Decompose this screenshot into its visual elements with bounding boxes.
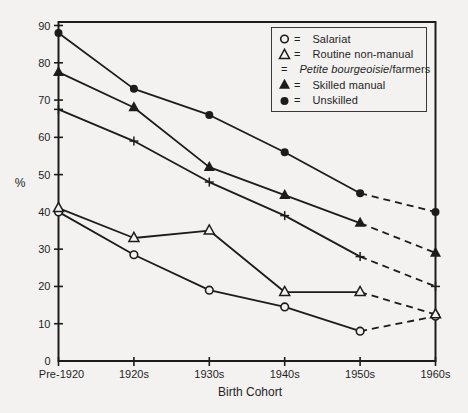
filled-circle-marker: [55, 29, 63, 37]
legend-equals: =: [281, 63, 287, 75]
filled-circle-marker: [281, 148, 289, 156]
y-tick-label: 90: [38, 20, 50, 32]
open-circle-marker: [356, 327, 364, 335]
series-petite-bourgeoisie-farmers-lines: [59, 109, 436, 286]
y-tick-label: 60: [38, 131, 50, 143]
legend-label: Skilled manual: [312, 79, 385, 91]
chart-figure: % Birth Cohort 0102030405060708090Pre-19…: [0, 0, 468, 413]
series-line-dashed: [360, 257, 435, 287]
filled-circle-marker: [281, 97, 289, 105]
y-tick-label: 20: [38, 280, 50, 292]
legend-item-petite-bourgeoisie-farmers: =Petite bourgeoisie/farmers: [278, 62, 424, 77]
x-tick-label: 1930s: [194, 368, 224, 380]
legend-equals: =: [294, 79, 300, 91]
x-tick-label: 1920s: [119, 368, 149, 380]
y-tick-label: 70: [38, 94, 50, 106]
series-salariat-markers: [55, 208, 440, 335]
legend-item-salariat: =Salariat: [278, 31, 424, 46]
filled-circle-marker: [432, 208, 440, 216]
open-circle-marker: [130, 251, 138, 259]
filled-circle-marker: [130, 85, 138, 93]
legend-label: Petite bourgeoisie/farmers: [299, 63, 430, 75]
legend: =Salariat=Routine non-manual=Petite bour…: [271, 27, 427, 112]
y-axis-label: %: [15, 176, 26, 190]
open-circle-marker: [281, 303, 289, 311]
legend-equals: =: [294, 33, 300, 45]
filled-circle-icon: [278, 93, 291, 108]
legend-item-skilled-manual: =Skilled manual: [278, 77, 424, 92]
open-triangle-icon: [278, 47, 291, 62]
open-circle-marker: [281, 36, 289, 44]
legend-equals: =: [294, 94, 300, 106]
open-circle-icon: [278, 31, 291, 46]
filled-triangle-icon: [278, 77, 291, 92]
legend-item-unskilled: =Unskilled: [278, 93, 424, 108]
y-tick-label: 30: [38, 243, 50, 255]
x-tick-label: 1940s: [270, 368, 300, 380]
series-line-dashed: [360, 193, 435, 212]
series-line-solid: [59, 208, 361, 292]
open-triangle-marker: [280, 49, 290, 58]
series-line-dashed: [360, 316, 435, 331]
x-tick-label: 1950s: [345, 368, 375, 380]
open-circle-marker: [206, 286, 214, 294]
open-triangle-marker: [204, 225, 214, 234]
filled-triangle-marker: [279, 79, 290, 89]
x-tick-label: 1960s: [421, 368, 451, 380]
legend-label: Salariat: [312, 33, 350, 45]
y-tick-label: 10: [38, 318, 50, 330]
legend-label: Routine non-manual: [312, 48, 413, 60]
filled-circle-marker: [356, 189, 364, 197]
series-line-dashed: [360, 292, 435, 314]
y-tick-label: 40: [38, 206, 50, 218]
legend-item-routine-non-manual: =Routine non-manual: [278, 47, 424, 62]
open-triangle-marker: [54, 203, 64, 212]
open-triangle-marker: [280, 286, 290, 295]
y-tick-label: 80: [38, 57, 50, 69]
legend-label: Unskilled: [312, 94, 358, 106]
filled-triangle-marker: [204, 161, 215, 171]
open-triangle-marker: [355, 286, 365, 295]
series-line-dashed: [360, 223, 435, 253]
legend-equals: =: [294, 48, 300, 60]
filled-triangle-marker: [53, 66, 64, 76]
filled-circle-marker: [205, 111, 213, 119]
x-axis-label: Birth Cohort: [218, 385, 283, 399]
y-tick-label: 50: [38, 169, 50, 181]
x-tick-label: Pre-1920: [39, 368, 84, 380]
y-tick-label: 0: [44, 355, 50, 367]
